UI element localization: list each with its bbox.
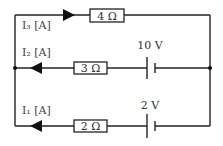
current-arrow-right-icon [63,9,75,21]
current-arrow-left-icon [30,62,42,74]
battery-2v-label: 2 V [141,99,160,112]
current-arrow-left-icon [30,120,42,132]
resistor-bot-label: 2 Ω [81,120,101,133]
top-branch: 4 Ω I₃ [A] [15,9,210,32]
bottom-branch: 2 Ω 2 V I₁ [A] [15,99,210,138]
circuit-diagram: 4 Ω I₃ [A] 3 Ω 10 V I₂ [A] 2 Ω 2 V I₁ [A… [0,0,223,146]
resistor-mid-label: 3 Ω [81,62,101,75]
current-i1-label: I₁ [A] [22,104,51,117]
junction-left [13,66,17,70]
resistor-top-label: 4 Ω [97,10,117,23]
current-i2-label: I₂ [A] [22,46,51,59]
middle-branch: 3 Ω 10 V I₂ [A] [13,39,212,79]
junction-right [208,66,212,70]
current-i3-label: I₃ [A] [22,19,51,32]
battery-10v-label: 10 V [137,39,163,52]
